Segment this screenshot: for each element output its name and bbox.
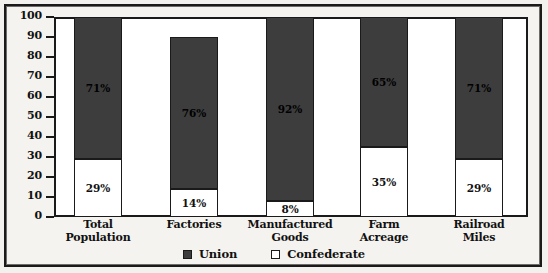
y-axis-tick-mark [46,216,54,218]
bar-group: 29%71% [455,17,503,217]
y-axis-tick-label: 50 [27,109,42,122]
bar-segment-confederate: 35% [360,147,408,217]
bar-group: 35%65% [360,17,408,217]
bar-segment-confederate: 14% [170,189,218,217]
y-axis-tick-mark [46,56,54,58]
legend-label: Confederate [287,247,365,261]
y-axis-tick-label: 70 [27,69,42,82]
y-axis-tick-label: 90 [27,29,42,42]
bar-segment-confederate: 29% [455,159,503,217]
bar-segment-label: 71% [467,83,491,94]
x-axis-category-label: RailroadMiles [419,219,539,245]
y-axis-tick-label: 20 [27,169,42,182]
legend-entry: Confederate [271,247,365,261]
bar-segment-label: 35% [372,177,396,188]
bar-segment-union: 71% [455,17,503,159]
y-axis-tick-label: 100 [20,9,42,22]
y-axis-tick-label: 60 [27,89,42,102]
bar-segment-label: 71% [86,83,110,94]
y-axis-tick-mark [46,16,54,18]
category-label-line: Population [38,232,158,245]
y-axis-tick-mark [46,36,54,38]
bar-segment-label: 8% [281,204,298,215]
bar-group: 29%71% [74,17,122,217]
legend-swatch-confederate-icon [271,250,280,259]
bar-segment-confederate: 29% [74,159,122,217]
chart-legend: UnionConfederate [0,247,548,261]
legend-swatch-union-icon [183,250,192,259]
bar-segment-label: 29% [86,183,110,194]
bar-segment-union: 65% [360,17,408,147]
y-axis-tick-mark [46,96,54,98]
bar-segment-confederate: 8% [266,201,314,217]
y-axis-tick-mark [46,156,54,158]
stacked-bar-chart-figure: 0102030405060708090100 29%71%14%76%8%92%… [0,0,548,273]
y-axis-tick-mark [46,196,54,198]
y-axis-tick-label: 10 [27,189,42,202]
bar-segment-label: 92% [278,104,302,115]
y-axis-tick-mark [46,116,54,118]
bar-segment-union: 92% [266,17,314,201]
y-axis-tick-label: 80 [27,49,42,62]
y-axis-tick-label: 30 [27,149,42,162]
bar-group: 14%76% [170,17,218,217]
legend-entry: Union [183,247,237,261]
y-axis-tick-mark [46,136,54,138]
bar-segment-label: 29% [467,183,491,194]
bar-segment-union: 71% [74,17,122,159]
bar-group: 8%92% [266,17,314,217]
legend-label: Union [199,247,237,261]
y-axis-tick-label: 40 [27,129,42,142]
bar-segment-label: 76% [182,108,206,119]
y-axis-tick-mark [46,176,54,178]
bar-segment-label: 65% [372,77,396,88]
bar-segment-union: 76% [170,37,218,189]
y-axis-tick-mark [46,76,54,78]
category-label-line: Miles [419,232,539,245]
bar-segment-label: 14% [182,198,206,209]
